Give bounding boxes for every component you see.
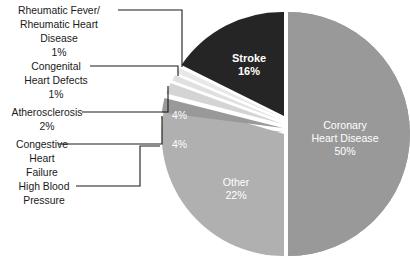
callout-congestive-line3: Failure bbox=[26, 167, 58, 178]
callout-congenital-percent: 1% bbox=[48, 89, 63, 100]
slice-label-coronary-line1: Coronary bbox=[323, 119, 367, 131]
pie-chart-canvas: Stroke 16% Coronary Heart Disease 50% Ot… bbox=[0, 0, 410, 267]
callout-congestive-line1: Congestive bbox=[16, 139, 68, 150]
slice-label-coronary-percent: 50% bbox=[334, 145, 356, 157]
slice-label-other-percent: 22% bbox=[225, 189, 247, 201]
callout-atherosclerosis-percent: 2% bbox=[39, 121, 54, 132]
callout-rheumatic-line3: Disease bbox=[40, 33, 78, 44]
slice-label-hbp-percent: 4% bbox=[172, 139, 187, 150]
callout-hbp-line2: Pressure bbox=[23, 195, 65, 206]
callout-congestive-line2: Heart bbox=[29, 153, 55, 164]
callout-rheumatic-percent: 1% bbox=[51, 47, 66, 58]
pie-chart-figure: Stroke 16% Coronary Heart Disease 50% Ot… bbox=[0, 0, 410, 267]
slice-label-chf-percent: 4% bbox=[172, 110, 187, 121]
slice-label-other: Other bbox=[223, 176, 250, 188]
callout-atherosclerosis-line1: Atherosclerosis bbox=[11, 107, 82, 118]
callout-rheumatic-line2: Rheumatic Heart bbox=[20, 19, 98, 30]
slice-label-stroke: Stroke bbox=[232, 52, 266, 64]
callout-hbp-line1: High Blood bbox=[19, 181, 70, 192]
slice-label-stroke-percent: 16% bbox=[238, 65, 260, 77]
slice-label-coronary-line2: Heart Disease bbox=[311, 132, 378, 144]
callout-congenital-line1: Congenital bbox=[31, 61, 81, 72]
callout-rheumatic-line1: Rheumatic Fever/ bbox=[18, 5, 100, 16]
callout-congenital-line2: Heart Defects bbox=[24, 75, 88, 86]
